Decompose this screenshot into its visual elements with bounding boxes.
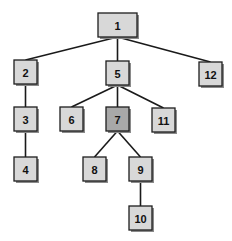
tree-node-3: 3 [14, 107, 39, 133]
edge-1-2 [26, 37, 118, 60]
tree-nodes: 125123671148910 [14, 13, 224, 232]
tree-node-2: 2 [14, 60, 39, 86]
tree-node-4: 4 [14, 157, 39, 183]
tree-node-11: 11 [152, 108, 177, 134]
node-label: 8 [91, 164, 97, 176]
tree-node-10: 10 [129, 206, 154, 232]
node-label: 12 [204, 69, 216, 81]
edge-7-8 [95, 131, 118, 157]
tree-node-5: 5 [106, 61, 131, 87]
tree-node-1: 1 [98, 13, 139, 39]
tree-node-8: 8 [83, 157, 108, 183]
node-label: 5 [114, 68, 120, 80]
tree-node-9: 9 [129, 157, 154, 183]
node-label: 9 [137, 164, 143, 176]
tree-node-12: 12 [199, 62, 224, 88]
node-label: 3 [22, 114, 28, 126]
node-label: 10 [134, 213, 146, 225]
tree-node-7: 7 [106, 107, 131, 133]
node-label: 6 [68, 114, 74, 126]
node-label: 4 [22, 164, 29, 176]
edge-5-11 [118, 85, 164, 108]
node-label: 2 [22, 67, 28, 79]
node-label: 7 [114, 114, 120, 126]
node-label: 11 [158, 115, 170, 127]
edge-5-6 [72, 85, 118, 107]
tree-diagram: 125123671148910 [0, 0, 232, 241]
edge-7-9 [118, 131, 141, 157]
node-label: 1 [114, 20, 120, 32]
edge-1-12 [118, 37, 211, 62]
tree-node-6: 6 [60, 107, 85, 133]
